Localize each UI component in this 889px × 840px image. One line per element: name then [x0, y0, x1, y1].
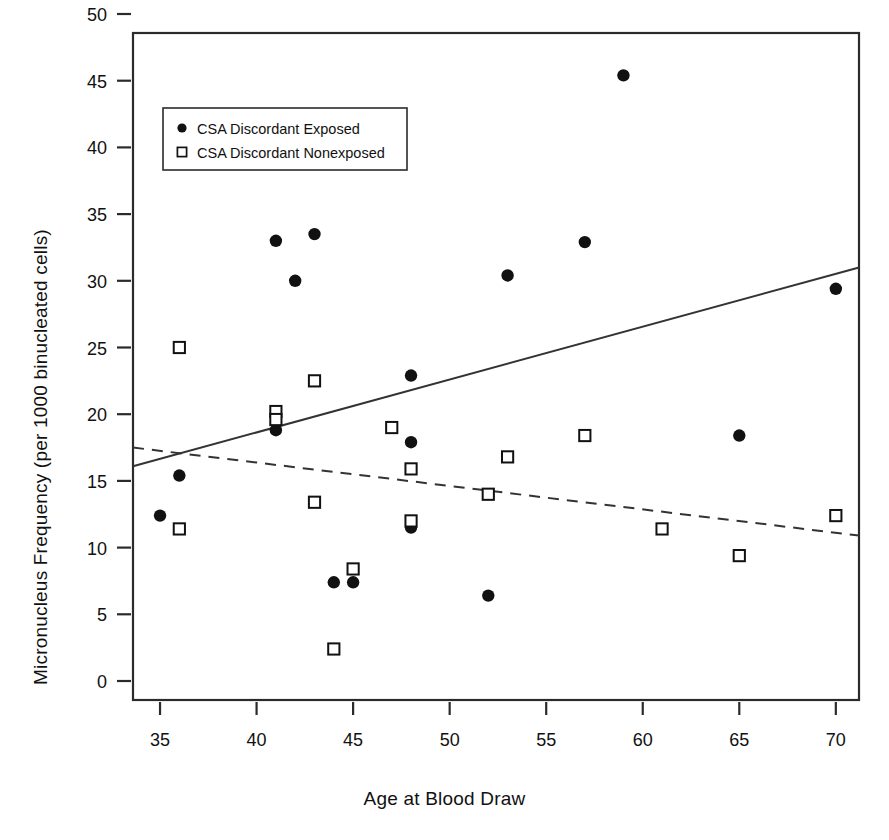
- data-point-nonexposed: [656, 523, 667, 534]
- y-tick-label: 20: [87, 405, 107, 425]
- data-point-nonexposed: [830, 510, 841, 521]
- y-tick-label: 45: [87, 72, 107, 92]
- y-tick-label: 35: [87, 205, 107, 225]
- y-tick-label: 50: [87, 5, 107, 25]
- data-point-exposed: [617, 69, 629, 81]
- x-tick-label: 35: [150, 730, 170, 750]
- y-tick-label: 15: [87, 472, 107, 492]
- data-point-exposed: [501, 269, 513, 281]
- legend-marker-open-square-icon: [177, 147, 186, 156]
- y-tick-label: 30: [87, 272, 107, 292]
- legend-label: CSA Discordant Nonexposed: [197, 145, 385, 161]
- data-point-exposed: [579, 236, 591, 248]
- data-point-exposed: [154, 509, 166, 521]
- x-tick-label: 60: [633, 730, 653, 750]
- data-point-nonexposed: [174, 342, 185, 353]
- data-point-exposed: [289, 275, 301, 287]
- y-tick-label: 40: [87, 138, 107, 158]
- scatter-plot-figure: Micronucleus Frequency (per 1000 binucle…: [0, 0, 889, 840]
- legend-marker-filled-circle-icon: [177, 123, 186, 132]
- x-tick-label: 40: [247, 730, 267, 750]
- data-point-nonexposed: [174, 523, 185, 534]
- x-tick-label: 55: [536, 730, 556, 750]
- data-point-exposed: [830, 283, 842, 295]
- data-point-exposed: [733, 429, 745, 441]
- trend-lines: [133, 267, 859, 535]
- data-point-exposed: [173, 469, 185, 481]
- data-point-nonexposed: [309, 375, 320, 386]
- data-point-nonexposed: [348, 563, 359, 574]
- data-point-exposed: [405, 369, 417, 381]
- legend-label: CSA Discordant Exposed: [197, 121, 360, 137]
- trend-line-dashed: [133, 448, 859, 536]
- y-axis-ticks: 05101520253035404550: [87, 5, 131, 692]
- data-point-nonexposed: [483, 489, 494, 500]
- data-point-exposed: [347, 576, 359, 588]
- chart-legend: CSA Discordant ExposedCSA Discordant Non…: [163, 108, 407, 170]
- data-point-exposed: [405, 436, 417, 448]
- data-point-nonexposed: [270, 414, 281, 425]
- data-point-nonexposed: [386, 422, 397, 433]
- data-point-nonexposed: [502, 451, 513, 462]
- data-point-exposed: [482, 589, 494, 601]
- x-tick-label: 70: [826, 730, 846, 750]
- data-point-nonexposed: [309, 497, 320, 508]
- x-tick-label: 45: [343, 730, 363, 750]
- data-point-exposed: [328, 576, 340, 588]
- data-point-nonexposed: [405, 515, 416, 526]
- data-point-exposed: [308, 228, 320, 240]
- legend-box: [163, 108, 407, 170]
- trend-line-solid: [133, 267, 859, 466]
- x-axis-ticks: 3540455055606570: [150, 702, 846, 750]
- x-tick-label: 50: [440, 730, 460, 750]
- plot-canvas: 3540455055606570 05101520253035404550 CS…: [0, 0, 889, 840]
- data-point-nonexposed: [734, 550, 745, 561]
- y-tick-label: 0: [97, 672, 107, 692]
- y-tick-label: 10: [87, 539, 107, 559]
- data-point-nonexposed: [328, 643, 339, 654]
- data-point-exposed: [270, 235, 282, 247]
- y-tick-label: 25: [87, 339, 107, 359]
- data-point-nonexposed: [579, 430, 590, 441]
- y-tick-label: 5: [97, 605, 107, 625]
- data-point-nonexposed: [405, 463, 416, 474]
- x-tick-label: 65: [729, 730, 749, 750]
